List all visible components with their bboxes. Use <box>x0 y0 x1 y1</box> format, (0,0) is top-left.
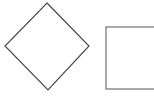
decision-diamond-shape <box>5 3 89 90</box>
process-rectangle-node[interactable] <box>106 27 154 89</box>
diagram-canvas <box>0 0 154 99</box>
decision-diamond-node[interactable] <box>5 3 89 90</box>
process-rectangle-shape <box>106 27 154 89</box>
